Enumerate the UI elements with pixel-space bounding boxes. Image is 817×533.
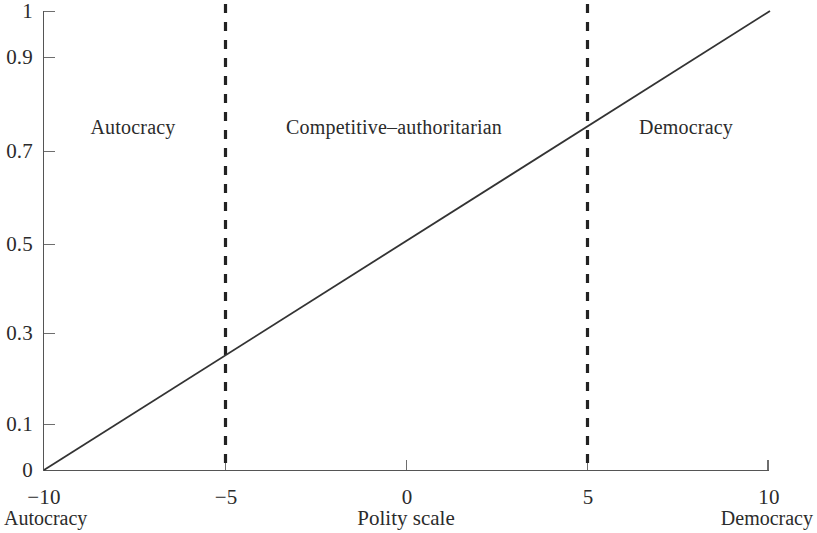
x-tick-label-minus5: −5	[215, 487, 238, 508]
x-tick-label-5: 5	[583, 487, 594, 508]
x-axis-ticks	[226, 460, 769, 470]
region-label-competitive-authoritarian: Competitive–authoritarian	[286, 117, 502, 137]
region-label-autocracy: Autocracy	[90, 117, 175, 137]
polity-scale-chart: 1 0.9 0.7 0.5 0.3 0.1 0 −10 −5 0 5 10 Au…	[0, 0, 817, 533]
y-tick-label-0-9: 0.9	[0, 47, 33, 68]
x-tick-label-10: 10	[758, 487, 779, 508]
y-tick-label-0-5: 0.5	[0, 234, 33, 255]
y-axis-ticks	[44, 12, 55, 425]
region-label-democracy: Democracy	[639, 117, 733, 137]
y-tick-label-0-1: 0.1	[0, 414, 33, 435]
y-tick-label-1: 1	[0, 1, 33, 22]
y-tick-label-0: 0	[0, 460, 33, 481]
x-axis-left-end-label: Autocracy	[4, 508, 87, 528]
x-axis-title: Polity scale	[357, 508, 454, 529]
y-tick-label-0-7: 0.7	[0, 141, 33, 162]
data-series-line	[44, 11, 770, 470]
x-tick-label-minus10: −10	[27, 487, 60, 508]
chart-plot-area	[0, 0, 817, 533]
x-axis-right-end-label: Democracy	[721, 508, 813, 528]
y-tick-label-0-3: 0.3	[0, 323, 33, 344]
